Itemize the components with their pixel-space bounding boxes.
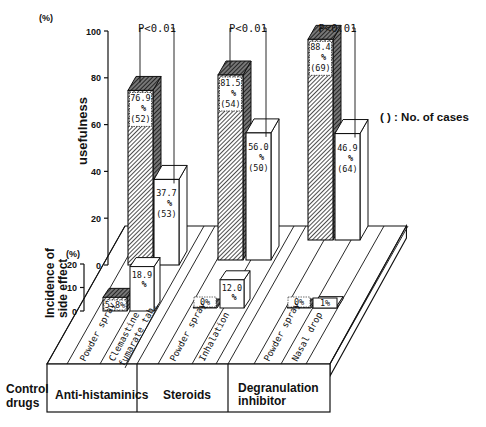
usefulness-side-effect-chart: 76.9%(52)37.7%(53)P<0.0181.5%(54)56.0%(5… xyxy=(0,0,486,427)
svg-text:%: % xyxy=(321,52,327,62)
svg-text:%: % xyxy=(141,279,147,289)
svg-text:(50): (50) xyxy=(248,163,268,173)
category-degranulation-inhibitor: Degranulation inhibitor xyxy=(238,382,319,408)
svg-text:80: 80 xyxy=(91,73,101,83)
svg-text:37.7: 37.7 xyxy=(156,188,176,198)
svg-text:P<0.01: P<0.01 xyxy=(138,22,176,34)
svg-text:%: % xyxy=(231,88,237,98)
svg-text:100: 100 xyxy=(86,27,101,37)
control-drugs-label: Control drugs xyxy=(6,382,49,410)
svg-text:0: 0 xyxy=(72,307,77,317)
svg-text:81.5: 81.5 xyxy=(220,78,240,88)
svg-text:%: % xyxy=(348,153,354,163)
svg-text:0: 0 xyxy=(96,261,101,271)
svg-text:(69): (69) xyxy=(310,63,330,73)
svg-text:%: % xyxy=(141,103,147,113)
category-anti-histaminics: Anti-histaminics xyxy=(55,389,148,402)
category-steroids: Steroids xyxy=(163,389,211,402)
svg-text:60: 60 xyxy=(91,120,101,130)
svg-text:P<0.01: P<0.01 xyxy=(319,22,357,34)
svg-text:(64): (64) xyxy=(337,164,357,174)
svg-text:P<0.01: P<0.01 xyxy=(229,22,267,34)
svg-text:%: % xyxy=(231,292,237,302)
svg-text:1%: 1% xyxy=(320,298,330,308)
y-axis-title: usefulness xyxy=(76,97,89,165)
legend-note: ( ) : No. of cases xyxy=(380,111,469,123)
svg-text:(53): (53) xyxy=(156,209,176,219)
svg-text:%: % xyxy=(259,152,265,162)
y-axis-unit: (%) xyxy=(39,12,53,25)
svg-text:46.9: 46.9 xyxy=(337,143,357,153)
svg-text:88.4: 88.4 xyxy=(310,42,330,52)
side-axis-title: Incidence of side effect xyxy=(44,248,70,318)
svg-text:(54): (54) xyxy=(220,99,240,109)
svg-text:40: 40 xyxy=(91,167,101,177)
svg-text:76.9: 76.9 xyxy=(130,93,150,103)
svg-text:56.0: 56.0 xyxy=(248,142,268,152)
svg-text:(52): (52) xyxy=(130,114,150,124)
svg-text:20: 20 xyxy=(91,214,101,224)
svg-text:%: % xyxy=(167,198,173,208)
